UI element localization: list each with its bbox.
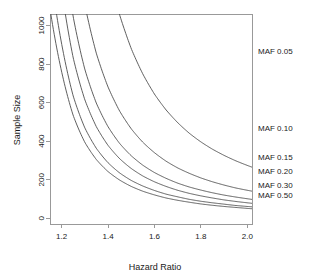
x-tick-label: 1.6: [149, 232, 161, 241]
y-tick-label: 200: [38, 172, 47, 186]
y-tick-label: 0: [38, 215, 47, 220]
series-label-maf-0-50: MAF 0.50: [258, 191, 293, 200]
x-axis-title: Hazard Ratio: [129, 262, 182, 272]
x-tick-label: 1.2: [56, 232, 68, 241]
series-label-maf-0-30: MAF 0.30: [258, 181, 293, 190]
sample-size-vs-hazard-ratio-chart: 1.21.41.61.82.0 02004006008001000 MAF 0.…: [0, 0, 318, 280]
series-label-maf-0-20: MAF 0.20: [258, 167, 293, 176]
y-tick-label: 600: [38, 95, 47, 109]
x-tick-label: 2.0: [242, 232, 254, 241]
series-label-maf-0-15: MAF 0.15: [258, 153, 293, 162]
y-axis-title: Sample Size: [12, 95, 22, 146]
series-label-maf-0-05: MAF 0.05: [258, 47, 293, 56]
y-tick-label: 800: [38, 57, 47, 71]
series-label-maf-0-10: MAF 0.10: [258, 124, 293, 133]
y-tick-label: 400: [38, 134, 47, 148]
y-tick-label: 1000: [38, 16, 47, 34]
x-tick-label: 1.4: [102, 232, 114, 241]
chart-container: 1.21.41.61.82.0 02004006008001000 MAF 0.…: [0, 0, 318, 280]
x-tick-label: 1.8: [195, 232, 207, 241]
